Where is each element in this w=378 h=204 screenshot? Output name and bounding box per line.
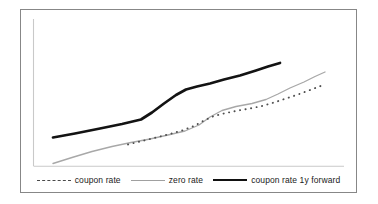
legend-label-zero-rate: zero rate bbox=[169, 175, 203, 185]
legend-entry-coupon-rate-1y-forward: coupon rate 1y forward bbox=[213, 175, 340, 185]
chart-frame bbox=[20, 9, 357, 193]
legend-entry-coupon-rate: coupon rate bbox=[37, 175, 121, 185]
chart-figure: coupon rate zero rate coupon rate 1y for… bbox=[0, 0, 378, 204]
dotted-line-swatch-icon bbox=[37, 176, 71, 184]
chart-legend: coupon rate zero rate coupon rate 1y for… bbox=[20, 172, 357, 188]
black-line-swatch-icon bbox=[213, 176, 247, 184]
legend-entry-zero-rate: zero rate bbox=[131, 175, 203, 185]
legend-label-coupon-rate: coupon rate bbox=[75, 175, 121, 185]
gray-line-swatch-icon bbox=[131, 176, 165, 184]
legend-label-coupon-rate-1y-forward: coupon rate 1y forward bbox=[251, 175, 340, 185]
